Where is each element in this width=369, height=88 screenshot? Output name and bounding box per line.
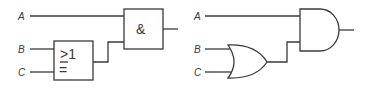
right-circuit: A B C: [193, 9, 354, 78]
wire-or-to-and: [267, 42, 300, 62]
left-circuit: A B C >1 = &: [17, 9, 178, 80]
input-b-label: B: [18, 44, 25, 55]
input-c-label: C: [18, 67, 26, 78]
wire-or-to-and: [93, 42, 124, 62]
and-gate: [300, 9, 339, 51]
and-gate-symbol: &: [136, 21, 146, 37]
or-gate: [228, 45, 267, 78]
or-gate-symbol-gt1: >1: [60, 46, 76, 62]
input-b-label: B: [194, 44, 201, 55]
logic-diagram: A B C >1 = & A B C: [0, 0, 369, 88]
input-a-label: A: [193, 11, 201, 22]
input-c-label: C: [194, 67, 202, 78]
input-a-label: A: [17, 11, 25, 22]
or-gate-symbol-eq: =: [59, 62, 67, 78]
